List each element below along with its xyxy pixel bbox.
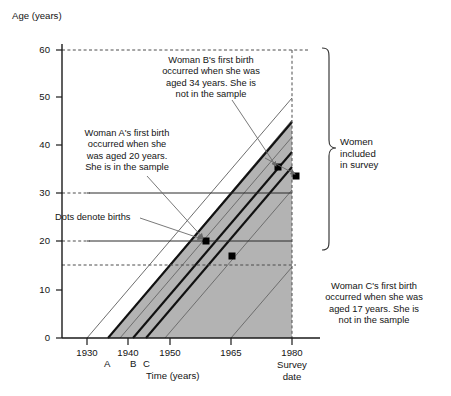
survey-date-line1: Survey	[272, 359, 312, 370]
y-tick-label-50: 50	[24, 91, 50, 102]
cohort-mark-C: C	[143, 358, 150, 369]
x-tick-label-1950: 1950	[150, 347, 190, 358]
y-tick-label-10: 10	[24, 284, 50, 295]
dot-birth-woman-A	[203, 238, 210, 245]
y-axis-label: Age (years)	[12, 10, 62, 21]
chart-canvas: Age (years) Time (years) 0 10 20 30 40 5…	[0, 0, 451, 396]
brace-label-women-included: Women included in survey	[340, 136, 410, 171]
x-tick-label-1940: 1940	[108, 347, 148, 358]
survey-date-line2: date	[272, 371, 312, 382]
y-tick-label-0: 0	[30, 332, 50, 343]
cohort-mark-A: A	[104, 358, 110, 369]
x-axis-label: Time (years)	[146, 370, 199, 381]
x-tick-label-1965: 1965	[211, 347, 251, 358]
y-tick-label-20: 20	[24, 235, 50, 246]
cohort-mark-B: B	[130, 358, 136, 369]
dot-birth-woman-C	[229, 253, 236, 260]
annotation-woman-a: Woman A's first birth occurred when she …	[62, 128, 192, 173]
x-tick-label-1930: 1930	[67, 347, 107, 358]
leader-woman-A	[147, 176, 203, 238]
annotation-woman-b: Woman B's first birth occurred when she …	[132, 55, 290, 100]
y-tick-label-30: 30	[24, 187, 50, 198]
y-tick-label-60: 60	[24, 44, 50, 55]
y-tick-label-40: 40	[24, 139, 50, 150]
leader-woman-B	[232, 100, 276, 166]
annotation-dots-denote-births: Dots denote births	[55, 212, 165, 223]
annotation-woman-c: Woman C's first birth occurred when she …	[300, 281, 448, 326]
x-tick-label-1980: 1980	[272, 347, 312, 358]
survey-brace	[322, 48, 336, 250]
